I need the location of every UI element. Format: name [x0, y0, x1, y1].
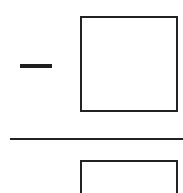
- numerator-input-box[interactable]: [80, 16, 178, 112]
- fraction-bar: [10, 138, 183, 140]
- denominator-input-box[interactable]: [80, 160, 178, 193]
- minus-sign: [20, 64, 52, 68]
- fraction-expression: [0, 0, 183, 193]
